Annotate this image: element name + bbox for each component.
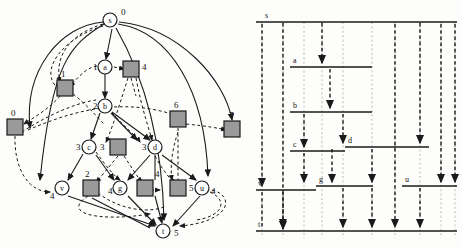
square-node-3[interactable] [110, 139, 126, 155]
square-node-0[interactable] [7, 119, 23, 135]
square-node-6[interactable] [170, 111, 186, 127]
value-label-u: 4 [211, 186, 216, 196]
node-letter-u: u [200, 184, 204, 193]
value-label-sq5: 5 [189, 183, 194, 193]
lane-label-a: a [293, 56, 297, 65]
figure-svg: s a b c d v g u t 0 1 2 3 3 4 4 4 5 0 1 … [0, 0, 462, 248]
value-label-a: 1 [93, 62, 98, 72]
square-node-7[interactable] [224, 121, 240, 137]
lane-label-s: s [265, 11, 268, 20]
square-node-4-bottom[interactable] [137, 180, 153, 196]
graph-panel: s a b c d v g u t 0 1 2 3 3 4 4 4 5 0 1 … [7, 7, 240, 238]
node-letter-v: v [60, 184, 64, 193]
node-letter-c: c [87, 143, 91, 152]
value-label-sq4b: 4 [155, 169, 160, 179]
value-label-sq0: 0 [11, 108, 16, 118]
square-node-1[interactable] [57, 80, 73, 96]
timeline-rails-light [262, 22, 455, 238]
graph-square-nodes [7, 61, 240, 196]
node-letter-d: d [153, 143, 157, 152]
value-label-s: 0 [121, 7, 126, 17]
lane-label-d: d [348, 136, 352, 145]
value-label-d: 3 [142, 142, 147, 152]
graph-value-labels: 0 1 2 3 3 4 4 4 5 0 1 4 6 7 3 2 4 5 [11, 7, 234, 238]
timeline-lane-labels: s a b c d v g u t [258, 11, 409, 229]
square-node-4-top[interactable] [123, 61, 139, 77]
value-label-c: 3 [76, 142, 81, 152]
lane-label-b: b [293, 101, 297, 110]
value-label-sq6: 6 [174, 100, 179, 110]
lane-label-v: v [258, 179, 262, 188]
timeline-messages [262, 23, 455, 229]
node-letter-b: b [103, 102, 107, 111]
node-letter-s: s [108, 16, 111, 25]
value-label-sq2: 2 [85, 169, 90, 179]
value-label-sq1: 1 [61, 69, 66, 79]
value-label-g: 4 [108, 186, 113, 196]
lane-label-g: g [319, 175, 323, 184]
value-label-sq3: 3 [100, 142, 105, 152]
lane-label-u: u [405, 175, 409, 184]
graph-dashed-edges [15, 24, 226, 226]
value-label-b: 2 [93, 101, 98, 111]
timeline-panel: s a b c d v g u t [256, 11, 457, 238]
lane-label-t: t [258, 220, 261, 229]
value-label-sq4t: 4 [142, 62, 147, 72]
figure-container: s a b c d v g u t 0 1 2 3 3 4 4 4 5 0 1 … [0, 0, 462, 248]
value-label-sq7: 7 [229, 110, 234, 120]
square-node-5[interactable] [170, 180, 186, 196]
node-letter-g: g [118, 184, 122, 193]
square-node-2[interactable] [83, 180, 99, 196]
value-label-v: 4 [50, 191, 55, 201]
lane-label-c: c [293, 140, 297, 149]
value-label-t: 5 [174, 228, 179, 238]
timeline-lanes [256, 22, 457, 231]
node-letter-a: a [103, 63, 107, 72]
